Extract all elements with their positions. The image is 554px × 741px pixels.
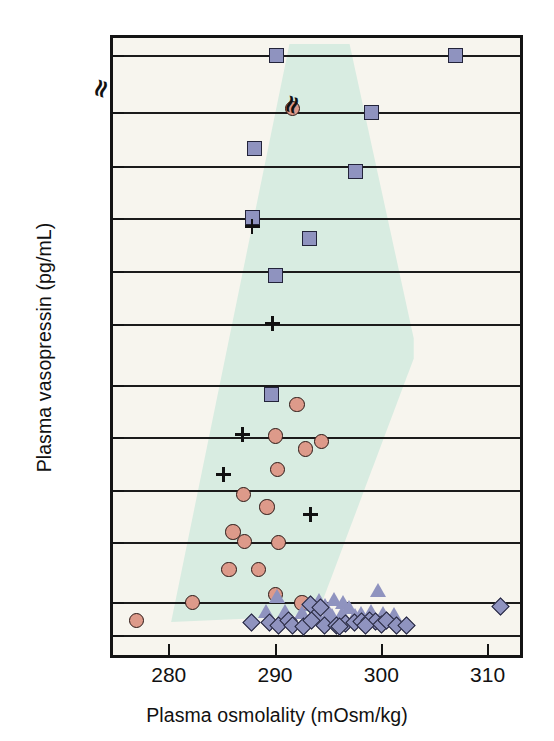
data-point-circle <box>289 397 305 413</box>
gridline <box>113 324 520 326</box>
y-axis-tick <box>113 166 124 168</box>
y-axis-tick <box>113 635 124 637</box>
data-point-circle <box>221 562 237 578</box>
data-point-plus <box>265 316 280 331</box>
data-point-square <box>268 268 283 283</box>
y-axis-tick <box>113 602 124 604</box>
x-axis-tick-label: 310 <box>448 664 528 685</box>
data-point-square <box>364 105 379 120</box>
x-axis-tick-label: 280 <box>129 664 209 685</box>
y-axis-tick <box>113 324 124 326</box>
data-point-square <box>247 141 262 156</box>
data-point-plus <box>216 467 231 482</box>
y-axis-tick <box>113 542 124 544</box>
data-point-plus <box>245 219 260 234</box>
y-axis-tick <box>113 490 124 492</box>
data-point-triangle <box>370 583 386 597</box>
y-axis-tick <box>113 218 124 220</box>
gridline <box>113 635 520 637</box>
data-point-circle <box>298 441 314 457</box>
data-point-circle <box>268 428 284 444</box>
data-point-square <box>348 164 363 179</box>
x-axis-title: Plasma osmolality (mOsm/kg) <box>0 704 554 727</box>
y-axis-title: Plasma vasopressin (pg/mL) <box>33 108 56 588</box>
data-point-square <box>269 48 284 63</box>
gridline <box>113 112 520 114</box>
gridline <box>113 166 520 168</box>
x-axis-tick <box>487 644 489 655</box>
gridline <box>113 271 520 273</box>
normal-range-band <box>113 38 520 655</box>
data-point-circle <box>259 499 275 515</box>
gridline <box>113 385 520 387</box>
figure: Plasma vasopressin (pg/mL) Plasma osmola… <box>0 0 554 741</box>
gridline <box>113 218 520 220</box>
y-axis-tick <box>113 112 124 114</box>
data-point-triangle <box>269 589 285 603</box>
data-point-square <box>302 231 317 246</box>
data-point-plus <box>303 507 318 522</box>
y-axis-tick <box>113 437 124 439</box>
x-axis-tick-label: 290 <box>235 664 315 685</box>
x-axis-tick <box>168 644 170 655</box>
x-axis-tick <box>381 644 383 655</box>
gridline <box>113 542 520 544</box>
data-point-square <box>264 387 279 402</box>
data-point-plus <box>235 427 250 442</box>
x-axis-tick-label: 300 <box>341 664 421 685</box>
gridline <box>113 490 520 492</box>
x-axis-tick <box>275 644 277 655</box>
plot-area <box>110 35 523 658</box>
plot-inner <box>113 38 520 655</box>
y-axis-tick <box>113 55 124 57</box>
y-axis-tick <box>113 385 124 387</box>
data-point-square <box>448 48 463 63</box>
y-axis-tick <box>113 271 124 273</box>
